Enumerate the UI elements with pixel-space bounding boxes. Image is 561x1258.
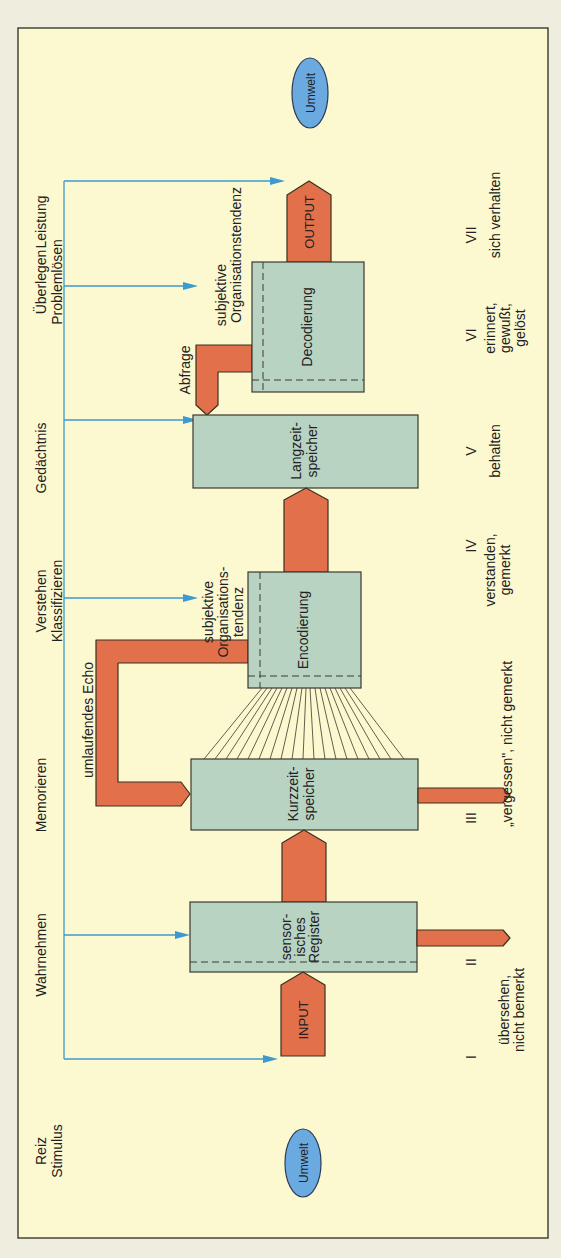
stage-wahrnehmen: Wahrnehmen xyxy=(33,913,49,997)
encode-to-longterm-arrow xyxy=(284,488,328,572)
dec-org-label-1: subjektive xyxy=(213,264,229,326)
decodierung-box: Decodierung xyxy=(252,262,364,392)
encodierung-box: Encodierung xyxy=(248,572,361,688)
langzeit-label-2: speicher xyxy=(304,424,320,477)
stage-reiz: Reiz xyxy=(33,1137,49,1165)
decodierung-label: Decodierung xyxy=(299,287,315,366)
outcome-text-5: behalten xyxy=(487,424,503,478)
stage-gedaechtnis: Gedächtnis xyxy=(33,423,49,494)
kurzzeitspeicher-box: Kurzzeit- speicher xyxy=(191,759,418,830)
environment-bottom-label: Umwelt xyxy=(297,1142,311,1183)
stage-klassifizieren: Klassifizieren xyxy=(49,560,65,642)
outcome-text-6b: gewußt, xyxy=(497,303,513,353)
langzeit-label-1: Langzeit- xyxy=(288,422,304,480)
outcome-text-7: sich verhalten xyxy=(487,172,503,258)
outcome-numeral-4: IV xyxy=(463,539,479,553)
environment-bottom: Umwelt xyxy=(285,1129,321,1197)
outcome-text-6c: gelöst xyxy=(512,309,528,346)
output-arrow: OUTPUT xyxy=(287,181,331,262)
outcome-text-2b: nicht bemerkt xyxy=(511,968,527,1052)
abfrage-label: Abfrage xyxy=(177,345,193,394)
outcome-text-4b: gemerkt xyxy=(497,545,513,596)
enc-org-label-1: subjektive xyxy=(200,581,216,643)
outcome-numeral-7: VII xyxy=(463,226,479,243)
forget-arrow-kurzzeit xyxy=(418,788,510,803)
outcome-numeral-3: III xyxy=(463,812,479,824)
sensorisches-register-box: sensor- isches Register xyxy=(190,902,417,972)
outcome-numeral-6: VI xyxy=(463,328,479,341)
langzeitspeicher-box: Langzeit- speicher xyxy=(193,415,418,488)
outcome-text-3: „vergessen", nicht gemerkt xyxy=(499,661,515,827)
stage-stimulus: Stimulus xyxy=(49,1124,65,1178)
encodierung-label: Encodierung xyxy=(295,591,311,670)
enc-org-label-3: tendenz xyxy=(230,587,246,637)
overlook-arrow-sensor xyxy=(417,930,510,946)
input-arrow: INPUT xyxy=(281,972,325,1056)
stage-ueberlegen: Überlegen xyxy=(32,250,49,315)
outcome-text-6a: erinnert, xyxy=(482,302,498,353)
stage-verstehen: Verstehen xyxy=(33,569,49,632)
outcome-numeral-2: II xyxy=(463,958,479,966)
outcome-text-2a: übersehen, xyxy=(496,975,512,1045)
input-label: INPUT xyxy=(296,1000,311,1039)
dec-org-label-2: Organisationstendenz xyxy=(228,187,244,323)
kurzzeit-label-1: Kurzzeit- xyxy=(285,766,301,822)
sensor-to-shortterm-arrow xyxy=(282,830,326,902)
echo-label: umlaufendes Echo xyxy=(80,662,96,778)
stage-leistung: Leistung xyxy=(33,196,49,249)
stage-problemloesen: Problemlösen xyxy=(49,239,65,325)
environment-top: Umwelt xyxy=(292,58,328,128)
kurzzeit-label-2: speicher xyxy=(301,767,317,820)
stage-memorieren: Memorieren xyxy=(33,758,49,833)
output-label: OUTPUT xyxy=(302,195,317,249)
sensor-label-3: Register xyxy=(306,911,322,963)
memory-process-diagram: Umwelt Umwelt OUTPUT Decodierung Langzei… xyxy=(0,0,561,1258)
environment-top-label: Umwelt xyxy=(304,72,318,113)
outcome-text-4a: verstanden, xyxy=(482,533,498,606)
enc-org-label-2: Organisations- xyxy=(215,566,231,657)
outcome-numeral-5: V xyxy=(463,446,479,456)
outcome-numeral-1: I xyxy=(463,1055,479,1059)
